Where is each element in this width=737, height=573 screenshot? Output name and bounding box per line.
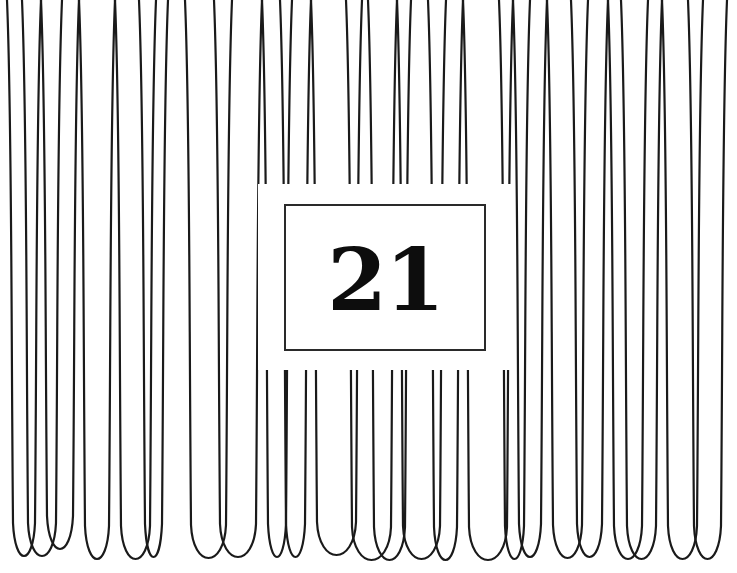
page-number-box: 21 xyxy=(284,204,486,351)
loop-curve xyxy=(571,0,608,557)
loop-curve xyxy=(688,0,727,559)
loop-curve xyxy=(22,0,62,556)
gap-below-box xyxy=(258,349,512,370)
loop-curve xyxy=(547,0,588,558)
loop-curve xyxy=(513,0,547,557)
loop-curve xyxy=(214,0,262,557)
loop-curve xyxy=(185,0,232,558)
gap-above-box xyxy=(258,184,512,204)
loop-curve xyxy=(115,0,156,559)
page-number: 21 xyxy=(327,237,443,323)
loop-curve xyxy=(79,0,115,559)
gap-right-box xyxy=(486,184,512,370)
loop-curve xyxy=(662,0,703,559)
loop-curve xyxy=(608,0,648,559)
gap-left-box xyxy=(258,184,284,370)
